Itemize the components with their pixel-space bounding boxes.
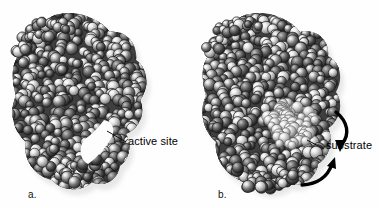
panel-label-b: b. bbox=[218, 189, 227, 200]
molecule-a-graphic bbox=[0, 0, 189, 208]
panel-a: a. bbox=[0, 0, 189, 208]
callout-active-site: active site bbox=[128, 135, 178, 147]
panel-label-a: a. bbox=[28, 189, 37, 200]
callout-substrate: substrate bbox=[326, 139, 372, 151]
molecule-b-graphic bbox=[190, 0, 379, 208]
figure-enzyme-substrate: a. bbox=[0, 0, 379, 208]
panel-b: b. bbox=[190, 0, 379, 208]
